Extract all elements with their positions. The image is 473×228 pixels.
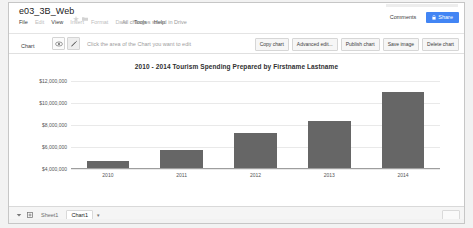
chart-bars: 20102011201220132014 bbox=[71, 81, 440, 168]
menu-item-format[interactable]: Format bbox=[91, 18, 108, 26]
y-axis-tick-label: $12,000,000 bbox=[39, 78, 67, 84]
chart-panel-label: Chart bbox=[21, 43, 34, 49]
delete-chart-button[interactable]: Delete chart bbox=[422, 38, 459, 51]
chart-edit-toolbar: Chart Click the area of the Chart you wa… bbox=[9, 34, 464, 54]
title-icon-group bbox=[73, 8, 88, 14]
chart-bar[interactable] bbox=[234, 133, 277, 168]
chart-bar-slot: 2010 bbox=[71, 81, 145, 168]
x-axis-tick-label: 2012 bbox=[250, 172, 261, 178]
chevron-down-icon[interactable]: ▼ bbox=[96, 213, 100, 218]
chart-gridline: $4,000,000 bbox=[71, 169, 440, 170]
x-axis-tick-label: 2013 bbox=[324, 172, 335, 178]
copy-chart-button[interactable]: Copy chart bbox=[255, 38, 289, 51]
header-actions: Comments Share bbox=[385, 11, 459, 23]
comments-button[interactable]: Comments bbox=[385, 11, 422, 23]
menu-item-edit[interactable]: Edit bbox=[35, 18, 44, 26]
menu-item-file[interactable]: File bbox=[19, 18, 28, 26]
chart-bar[interactable] bbox=[308, 121, 351, 168]
chart-canvas[interactable]: 2010 - 2014 Tourism Spending Prepared by… bbox=[9, 54, 464, 204]
browser-window: e03_3B_Web File Edit View Insert Format … bbox=[8, 2, 465, 224]
lock-icon bbox=[432, 15, 436, 20]
document-title[interactable]: e03_3B_Web bbox=[19, 6, 74, 16]
chart-plot-area: $12,000,000$10,000,000$8,000,000$6,000,0… bbox=[71, 81, 440, 169]
share-button[interactable]: Share bbox=[426, 12, 459, 23]
chart-action-buttons: Copy chart Advanced edit... Publish char… bbox=[255, 38, 459, 51]
menu-item-insert[interactable]: Insert bbox=[70, 18, 84, 26]
publish-chart-button[interactable]: Publish chart bbox=[341, 38, 380, 51]
screenshot-root: e03_3B_Web File Edit View Insert Format … bbox=[0, 0, 473, 228]
chart-bar[interactable] bbox=[160, 150, 203, 168]
chart-title: 2010 - 2014 Tourism Spending Prepared by… bbox=[9, 63, 464, 70]
add-sheet-icon[interactable] bbox=[26, 212, 33, 219]
chart-baseline-axis bbox=[71, 168, 440, 169]
x-axis-tick-label: 2014 bbox=[398, 172, 409, 178]
chart-bar-slot: 2012 bbox=[219, 81, 293, 168]
chart-bar-slot: 2014 bbox=[366, 81, 440, 168]
star-icon[interactable] bbox=[73, 8, 79, 14]
pencil-icon[interactable] bbox=[67, 37, 80, 50]
chart-bar-slot: 2013 bbox=[292, 81, 366, 168]
all-sheets-icon[interactable] bbox=[15, 212, 22, 219]
window-bottom-edge bbox=[9, 219, 464, 223]
save-image-button[interactable]: Save image bbox=[383, 38, 419, 51]
eye-icon[interactable] bbox=[52, 37, 65, 50]
x-axis-tick-label: 2011 bbox=[176, 172, 187, 178]
save-status-text: All changes saved in Drive bbox=[122, 18, 187, 26]
chart-edit-hint: Click the area of the Chart you want to … bbox=[87, 41, 191, 47]
y-axis-tick-label: $8,000,000 bbox=[42, 122, 67, 128]
y-axis-tick-label: $10,000,000 bbox=[39, 100, 67, 106]
y-axis-tick-label: $6,000,000 bbox=[42, 144, 67, 150]
x-axis-tick-label: 2010 bbox=[102, 172, 113, 178]
app-header: e03_3B_Web File Edit View Insert Format … bbox=[9, 3, 464, 34]
y-axis-tick-label: $4,000,000 bbox=[42, 166, 67, 172]
chart-bar-slot: 2011 bbox=[145, 81, 219, 168]
folder-icon[interactable] bbox=[82, 8, 88, 14]
header-top-strip bbox=[386, 4, 458, 7]
advanced-edit-button[interactable]: Advanced edit... bbox=[292, 38, 338, 51]
menu-item-view[interactable]: View bbox=[51, 18, 63, 26]
share-button-label: Share bbox=[438, 14, 453, 20]
chart-bar[interactable] bbox=[382, 92, 425, 168]
chart-bar[interactable] bbox=[87, 161, 130, 168]
